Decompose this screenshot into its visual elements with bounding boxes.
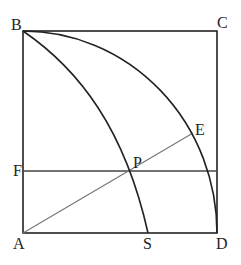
label-a: A bbox=[13, 236, 25, 252]
label-f: F bbox=[13, 163, 22, 179]
label-p: P bbox=[133, 155, 142, 171]
label-s: S bbox=[143, 236, 152, 252]
segment-ae bbox=[23, 133, 193, 233]
label-c: C bbox=[217, 15, 228, 31]
label-d: D bbox=[216, 236, 228, 252]
diagram-canvas bbox=[0, 0, 241, 265]
label-b: B bbox=[11, 17, 22, 33]
arc-bs bbox=[23, 31, 148, 233]
geometry-diagram: B C E F P A S D bbox=[0, 0, 241, 265]
arc-bd bbox=[23, 31, 217, 233]
square-abcd bbox=[23, 31, 217, 233]
label-e: E bbox=[195, 122, 205, 138]
